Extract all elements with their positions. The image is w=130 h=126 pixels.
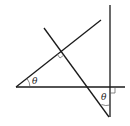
transversal-line [44, 28, 109, 117]
theta-bottom-arc [102, 105, 111, 106]
diagram-svg [0, 0, 130, 126]
geometry-diagram: θ θ [0, 0, 130, 126]
inclined-line [16, 20, 101, 87]
theta-bottom-label: θ [101, 93, 106, 102]
right-angle-vertical-mark [110, 87, 115, 93]
theta-left-arc [27, 79, 30, 88]
theta-left-label: θ [32, 77, 37, 86]
